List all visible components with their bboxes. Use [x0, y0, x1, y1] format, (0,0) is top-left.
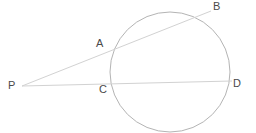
secant-line-pd: [22, 81, 232, 86]
geometry-canvas: [0, 0, 256, 133]
point-label-p: P: [8, 80, 15, 91]
point-label-b: B: [213, 1, 220, 12]
point-label-d: D: [233, 78, 241, 89]
point-label-c: C: [99, 84, 107, 95]
secant-line-pb: [22, 11, 211, 86]
point-label-a: A: [96, 38, 103, 49]
geometry-diagram: P A B C D: [0, 0, 256, 133]
circle-shape: [110, 12, 230, 132]
